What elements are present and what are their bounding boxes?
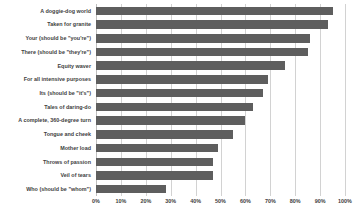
bar-row bbox=[96, 86, 345, 100]
x-tick-label: 20% bbox=[140, 198, 151, 204]
category-label-row: Mother load bbox=[0, 141, 96, 155]
bar-row bbox=[96, 114, 345, 128]
bar bbox=[96, 61, 285, 70]
category-label-row: Tales of daring-do bbox=[0, 100, 96, 114]
category-label: A doggie-dog world bbox=[40, 8, 91, 14]
category-label-row: A doggie-dog world bbox=[0, 4, 96, 18]
bar bbox=[96, 171, 213, 180]
category-label: Tales of daring-do bbox=[44, 104, 91, 110]
category-label: Its (should be "it's") bbox=[40, 90, 91, 96]
category-label-row: There (should be "they're") bbox=[0, 45, 96, 59]
x-tick-label: 100% bbox=[338, 198, 352, 204]
bar-row bbox=[96, 59, 345, 73]
bar-row bbox=[96, 45, 345, 59]
bar-row bbox=[96, 141, 345, 155]
category-label-row: Tongue and cheek bbox=[0, 127, 96, 141]
category-label-row: Its (should be "it's") bbox=[0, 86, 96, 100]
category-label: A complete, 360-degree turn bbox=[18, 117, 91, 123]
category-label: Equity waver bbox=[58, 63, 92, 69]
category-label-row: A complete, 360-degree turn bbox=[0, 114, 96, 128]
x-tick-label: 30% bbox=[165, 198, 176, 204]
category-label: There (should be "they're") bbox=[21, 49, 91, 55]
x-tick-label: 90% bbox=[315, 198, 326, 204]
plot-area bbox=[96, 4, 345, 196]
x-tick-label: 10% bbox=[115, 198, 126, 204]
category-label-row: For all intensive purposes bbox=[0, 73, 96, 87]
bar-row bbox=[96, 31, 345, 45]
bar bbox=[96, 116, 245, 125]
bar-row bbox=[96, 169, 345, 183]
category-label: Veil of tears bbox=[60, 172, 91, 178]
bar-row bbox=[96, 4, 345, 18]
bar-row bbox=[96, 182, 345, 196]
x-tick-label: 0% bbox=[92, 198, 100, 204]
category-label: For all intensive purposes bbox=[24, 76, 91, 82]
x-tick-label: 50% bbox=[215, 198, 226, 204]
bar-row bbox=[96, 127, 345, 141]
category-label-row: Throws of passion bbox=[0, 155, 96, 169]
bar-row bbox=[96, 100, 345, 114]
value-axis-labels: 0%10%20%30%40%50%60%70%80%90%100% bbox=[96, 198, 345, 212]
bar-row bbox=[96, 18, 345, 32]
bar bbox=[96, 20, 328, 29]
bar bbox=[96, 7, 333, 16]
category-label-row: Who (should be "whom") bbox=[0, 182, 96, 196]
bar bbox=[96, 158, 213, 167]
bar bbox=[96, 144, 218, 153]
bar bbox=[96, 89, 263, 98]
bar-row bbox=[96, 73, 345, 87]
bar-series bbox=[96, 4, 345, 196]
bar bbox=[96, 185, 166, 194]
x-tick-label: 40% bbox=[190, 198, 201, 204]
category-label-row: Veil of tears bbox=[0, 169, 96, 183]
category-label: Taken for granite bbox=[47, 21, 91, 27]
category-label-row: Equity waver bbox=[0, 59, 96, 73]
category-axis-labels: A doggie-dog worldTaken for graniteYour … bbox=[0, 4, 96, 196]
x-tick-label: 70% bbox=[265, 198, 276, 204]
category-label: Your (should be "you're") bbox=[26, 35, 92, 41]
gridline bbox=[345, 4, 346, 196]
bar bbox=[96, 48, 308, 57]
x-tick-label: 60% bbox=[240, 198, 251, 204]
bar bbox=[96, 103, 253, 112]
bar bbox=[96, 34, 310, 43]
bar-chart: A doggie-dog worldTaken for graniteYour … bbox=[0, 0, 358, 223]
bar bbox=[96, 75, 268, 84]
category-label-row: Your (should be "you're") bbox=[0, 31, 96, 45]
x-tick-label: 80% bbox=[290, 198, 301, 204]
category-label-row: Taken for granite bbox=[0, 18, 96, 32]
category-label: Who (should be "whom") bbox=[26, 186, 91, 192]
bar-row bbox=[96, 155, 345, 169]
category-label: Tongue and cheek bbox=[44, 131, 91, 137]
category-label: Throws of passion bbox=[43, 159, 91, 165]
category-label: Mother load bbox=[60, 145, 91, 151]
bar bbox=[96, 130, 233, 139]
